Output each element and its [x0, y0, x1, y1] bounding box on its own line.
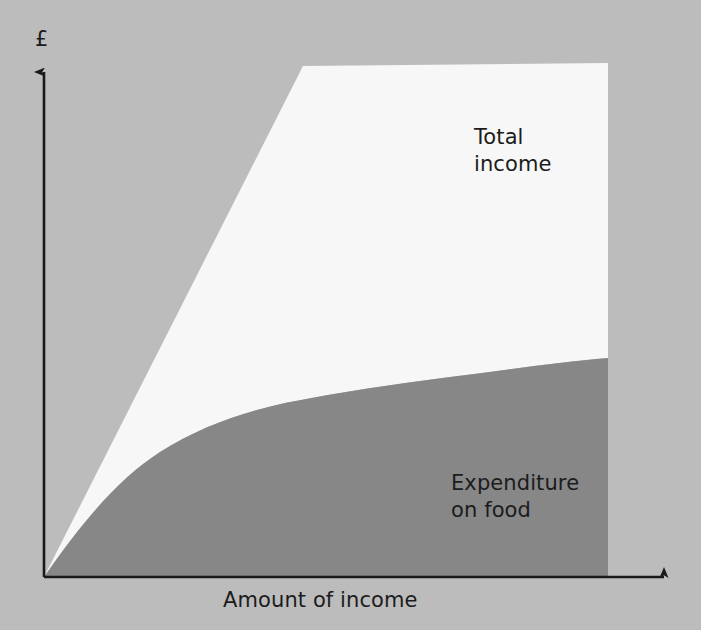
y-axis-label: £: [35, 26, 48, 53]
x-axis-label: Amount of income: [223, 587, 418, 614]
chart-plot-area: [0, 0, 701, 630]
engel-curve-chart: £ Total income Expenditure on food Amoun…: [0, 0, 701, 630]
total-income-annotation: Total income: [474, 124, 552, 178]
expenditure-on-food-annotation: Expenditure on food: [451, 470, 579, 524]
